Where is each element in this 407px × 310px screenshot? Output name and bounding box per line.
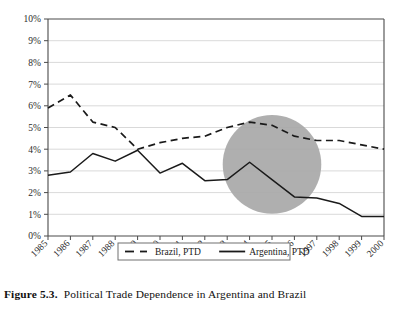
y-axis-ticks: 0%1%2%3%4%5%6%7%8%9%10% <box>24 14 48 241</box>
x-tick-label: 1987 <box>74 238 95 259</box>
figure-caption-text: Political Trade Dependence in Argentina … <box>64 288 307 300</box>
x-tick-label: 1988 <box>96 238 117 259</box>
figure-number: Figure 5.3. <box>4 288 58 300</box>
x-tick-label: 2000 <box>365 238 386 259</box>
y-tick-label: 9% <box>28 36 41 46</box>
figure-caption: Figure 5.3. Political Trade Dependence i… <box>4 288 404 300</box>
chart-legend: Brazil, PTDArgentina, PTD <box>118 243 310 260</box>
y-tick-label: 7% <box>28 80 41 90</box>
chart-area: 0%1%2%3%4%5%6%7%8%9%10% 1985198619871988… <box>0 0 407 262</box>
y-tick-label: 10% <box>24 14 42 24</box>
x-tick-label: 1999 <box>343 238 364 259</box>
highlight-circle-annotation <box>223 115 322 214</box>
y-tick-label: 2% <box>28 188 41 198</box>
y-tick-label: 5% <box>28 123 41 133</box>
figure-container: 0%1%2%3%4%5%6%7%8%9%10% 1985198619871988… <box>0 0 407 310</box>
y-tick-label: 3% <box>28 166 41 176</box>
line-chart: 0%1%2%3%4%5%6%7%8%9%10% 1985198619871988… <box>0 0 407 262</box>
x-tick-label: 1998 <box>320 238 341 259</box>
x-tick-label: 1986 <box>51 238 72 259</box>
y-tick-label: 8% <box>28 58 41 68</box>
y-tick-label: 1% <box>28 210 41 220</box>
y-tick-label: 6% <box>28 101 41 111</box>
legend-label: Brazil, PTD <box>155 247 201 257</box>
y-tick-label: 4% <box>28 145 41 155</box>
legend-label: Argentina, PTD <box>249 247 310 257</box>
y-tick-label: 0% <box>28 231 41 241</box>
